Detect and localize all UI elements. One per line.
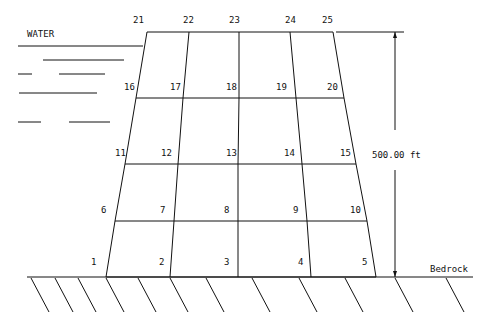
- dam-mesh-diagram: WATER 1234567891011121314151617181920212…: [0, 0, 494, 329]
- mesh-vertical-line: [296, 98, 302, 164]
- node-label-9: 9: [293, 205, 298, 215]
- node-label-2: 2: [159, 257, 164, 267]
- node-label-11: 11: [115, 148, 126, 158]
- mesh-vertical-line: [174, 164, 178, 221]
- node-label-5: 5: [362, 257, 367, 267]
- ground-hatch-line: [106, 278, 124, 312]
- ground-hatch-line: [78, 278, 96, 312]
- height-dimension-label: 500.00 ft: [372, 150, 421, 160]
- node-label-1: 1: [91, 257, 96, 267]
- node-label-7: 7: [160, 205, 165, 215]
- dam-finite-element-mesh: [106, 32, 376, 277]
- mesh-vertical-line: [183, 32, 189, 98]
- mesh-vertical-line: [290, 32, 296, 98]
- mesh-vertical-line: [115, 164, 125, 221]
- node-label-6: 6: [101, 205, 106, 215]
- arrow-down-icon: [393, 271, 397, 277]
- ground-hatch-line: [252, 278, 270, 312]
- mesh-vertical-line: [302, 164, 307, 221]
- node-label-17: 17: [170, 82, 181, 92]
- node-label-4: 4: [298, 257, 303, 267]
- node-label-20: 20: [327, 82, 338, 92]
- mesh-vertical-line: [106, 221, 115, 277]
- node-label-8: 8: [224, 205, 229, 215]
- node-label-3: 3: [224, 257, 229, 267]
- ground-hatch-line: [31, 278, 49, 312]
- node-label-15: 15: [340, 148, 351, 158]
- node-label-13: 13: [226, 148, 237, 158]
- ground-hatch-line: [55, 278, 73, 312]
- node-label-21: 21: [133, 15, 144, 25]
- mesh-vertical-line: [125, 98, 136, 164]
- node-label-18: 18: [226, 82, 237, 92]
- node-label-16: 16: [124, 82, 135, 92]
- node-label-23: 23: [229, 15, 240, 25]
- node-label-24: 24: [285, 15, 296, 25]
- node-label-10: 10: [350, 205, 361, 215]
- ground-hatch-line: [446, 278, 464, 312]
- mesh-vertical-line: [367, 221, 376, 277]
- ground-hatch-line: [170, 278, 188, 312]
- mesh-vertical-line: [178, 98, 183, 164]
- ground-hatch-line: [206, 278, 224, 312]
- water-label: WATER: [27, 29, 55, 39]
- node-number-labels: 1234567891011121314151617181920212223242…: [91, 15, 367, 267]
- bedrock-label: Bedrock: [430, 264, 469, 274]
- mesh-vertical-line: [307, 221, 311, 277]
- mesh-vertical-line: [238, 98, 239, 164]
- node-label-22: 22: [183, 15, 194, 25]
- arrow-up-icon: [393, 32, 397, 38]
- bedrock-ground-hatching: [27, 277, 473, 312]
- ground-hatch-line: [345, 278, 363, 312]
- mesh-vertical-line: [136, 32, 147, 98]
- ground-hatch-line: [395, 278, 413, 312]
- node-label-12: 12: [161, 148, 172, 158]
- node-label-14: 14: [284, 148, 295, 158]
- node-label-25: 25: [322, 15, 333, 25]
- node-label-19: 19: [276, 82, 287, 92]
- mesh-vertical-line: [170, 221, 174, 277]
- ground-hatch-line: [299, 278, 317, 312]
- ground-hatch-line: [138, 278, 156, 312]
